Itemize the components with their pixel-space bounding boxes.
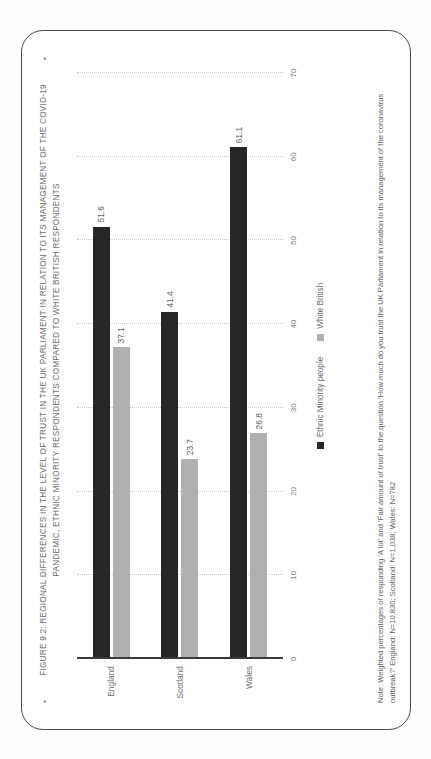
value-axis-tick: 20 — [289, 487, 298, 496]
figure-title: FIGURE 9.2: REGIONAL DIFFERENCES IN THE … — [38, 68, 63, 692]
value-axis-tick: 40 — [289, 319, 298, 328]
legend-swatch-icon — [317, 333, 324, 340]
category-label-scotland: Scotland — [174, 659, 184, 699]
bar-value-label: 37.1 — [116, 327, 126, 343]
page-canvas: • FIGURE 9.2: REGIONAL DIFFERENCES IN TH… — [0, 0, 431, 759]
bar-value-label: 41.4 — [164, 291, 174, 307]
bar-england-white-british — [112, 347, 129, 657]
value-axis-tick-labels: 010203040506070 — [289, 73, 303, 659]
value-axis-tick: 50 — [289, 235, 298, 244]
value-axis-tick: 0 — [289, 656, 298, 660]
value-axis-tick: 60 — [289, 152, 298, 161]
legend-item-ethnic-minority[interactable]: Ethnic Minority people — [316, 356, 325, 449]
bar-scotland-white-british — [181, 459, 198, 657]
legend-item-white-british[interactable]: White British — [316, 282, 325, 340]
figure-note: Note: Weighted percentages of responding… — [375, 57, 398, 703]
bar-value-label: 26.8 — [253, 413, 263, 429]
figure-title-row: • FIGURE 9.2: REGIONAL DIFFERENCES IN TH… — [38, 57, 63, 703]
bar-wales-white-british — [250, 433, 267, 657]
bar-wales-ethnic-minority — [230, 147, 247, 657]
bar-value-label: 61.1 — [233, 126, 243, 142]
bar-england-ethnic-minority — [92, 226, 109, 656]
bar-group: 41.423.7Scotland — [145, 73, 214, 657]
chart-legend: Ethnic Minority peopleWhite British — [316, 73, 325, 659]
legend-label: Ethnic Minority people — [316, 356, 325, 437]
bar-group: 61.126.8Wales — [214, 73, 283, 657]
bullet-icon: • — [38, 699, 51, 702]
bullet-icon-right: • — [38, 57, 51, 60]
category-label-england: England — [106, 659, 116, 697]
value-axis-tick: 30 — [289, 403, 298, 412]
value-axis-tick: 10 — [289, 570, 298, 579]
plot-region: 51.637.1England41.423.7Scotland61.126.8W… — [77, 73, 283, 659]
bar-scotland-ethnic-minority — [161, 311, 178, 656]
bar-group: 51.637.1England — [77, 73, 146, 657]
bar-value-label: 23.7 — [184, 438, 194, 454]
figure-sheet: • FIGURE 9.2: REGIONAL DIFFERENCES IN TH… — [21, 30, 411, 730]
legend-swatch-icon — [317, 442, 324, 449]
legend-label: White British — [316, 282, 325, 328]
rotated-figure-container: • FIGURE 9.2: REGIONAL DIFFERENCES IN TH… — [21, 30, 411, 730]
category-label-wales: Wales — [243, 659, 253, 689]
value-axis-tick: 70 — [289, 68, 298, 77]
bar-value-label: 51.6 — [96, 206, 106, 222]
chart-area: 51.637.1England41.423.7Scotland61.126.8W… — [73, 67, 323, 693]
